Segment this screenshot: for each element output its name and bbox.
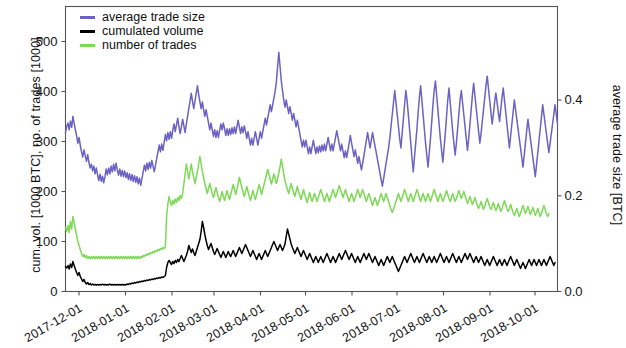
y-axis-left-title: cum. vol. [1000 BTC], no. of trades [100… [29, 15, 43, 295]
legend-label: number of trades [102, 39, 197, 52]
series-lines [66, 52, 558, 285]
legend-item-0: average trade size [80, 11, 205, 24]
y-axis-right-title: average trade size [BTC] [610, 30, 624, 280]
legend-swatch-icon [80, 30, 95, 33]
legend-item-2: number of trades [80, 39, 205, 52]
y-left-tick-400: 400 [14, 84, 58, 99]
y-left-tick-500: 500 [14, 34, 58, 49]
y-right-tick-0.2: 0.2 [565, 188, 609, 203]
legend-label: average trade size [102, 11, 205, 24]
y-right-tick-0.4: 0.4 [565, 92, 609, 107]
y-left-tick-200: 200 [14, 184, 58, 199]
legend-swatch-icon [80, 44, 95, 47]
y-right-tick-0.0: 0.0 [565, 284, 609, 299]
chart-legend: average trade sizecumulated volumenumber… [80, 11, 205, 53]
legend-item-1: cumulated volume [80, 25, 205, 38]
series-line-number-of-trades [66, 157, 549, 260]
y-left-tick-0: 0 [14, 284, 58, 299]
y-left-tick-100: 100 [14, 234, 58, 249]
series-line-average-trade-size [66, 52, 558, 186]
legend-swatch-icon [80, 16, 95, 19]
chart-figure: cum. vol. [1000 BTC], no. of trades [100… [0, 0, 626, 348]
legend-label: cumulated volume [102, 25, 203, 38]
y-left-tick-300: 300 [14, 134, 58, 149]
series-line-cumulated-volume [66, 222, 556, 286]
